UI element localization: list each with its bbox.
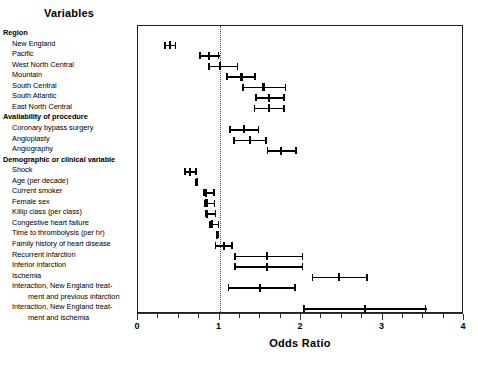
x-axis-minor-tick bbox=[422, 314, 423, 318]
ci-lower-cap bbox=[208, 63, 210, 70]
ci-upper-cap bbox=[175, 42, 177, 49]
confidence-interval-row bbox=[138, 262, 462, 271]
odds-ratio-point bbox=[249, 136, 251, 144]
variable-label-continuation: ment and previous infarction bbox=[28, 293, 119, 301]
variable-label: Coronary bypass surgery bbox=[12, 124, 93, 132]
confidence-interval-row bbox=[138, 273, 462, 282]
confidence-interval-row bbox=[138, 146, 462, 155]
ci-lower-cap bbox=[234, 263, 236, 270]
ci-upper-cap bbox=[213, 189, 215, 196]
variable-label: Family history of heart disease bbox=[12, 240, 111, 248]
confidence-interval-row bbox=[138, 188, 462, 197]
x-axis-major-tick bbox=[219, 314, 220, 320]
x-axis-minor-tick bbox=[361, 314, 362, 318]
variable-label: Mountain bbox=[12, 71, 42, 79]
ci-upper-cap bbox=[237, 63, 239, 70]
ci-upper-cap bbox=[425, 305, 427, 312]
ci-lower-cap bbox=[164, 42, 166, 49]
confidence-interval-row bbox=[138, 304, 462, 313]
x-axis-major-tick bbox=[382, 314, 383, 320]
x-axis-major-tick bbox=[137, 314, 138, 320]
variable-label: Inferior infarction bbox=[12, 261, 66, 269]
confidence-interval-row bbox=[138, 252, 462, 261]
x-axis-minor-tick bbox=[157, 314, 158, 318]
x-axis-tick-label: 4 bbox=[460, 321, 465, 331]
x-axis-minor-tick bbox=[239, 314, 240, 318]
ci-lower-cap bbox=[199, 52, 201, 59]
confidence-interval-row bbox=[138, 209, 462, 218]
odds-ratio-point bbox=[338, 273, 340, 281]
odds-ratio-point bbox=[268, 94, 270, 102]
ci-upper-cap bbox=[366, 274, 368, 281]
ci-upper-cap bbox=[258, 126, 260, 133]
confidence-interval-row bbox=[138, 83, 462, 92]
ci-line bbox=[228, 287, 296, 289]
ci-upper-cap bbox=[218, 221, 220, 228]
ci-upper-cap bbox=[215, 210, 217, 217]
x-axis-minor-tick bbox=[402, 314, 403, 318]
variable-label: Female sex bbox=[12, 198, 50, 206]
variable-label: Interaction, New England treat- bbox=[12, 303, 112, 311]
confidence-interval-row bbox=[138, 62, 462, 71]
variable-label: Interaction, New England treat- bbox=[12, 282, 112, 290]
x-axis-tick-label: 0 bbox=[134, 321, 139, 331]
ci-lower-cap bbox=[233, 137, 235, 144]
ci-lower-cap bbox=[303, 305, 305, 312]
confidence-interval-row bbox=[138, 167, 462, 176]
ci-lower-cap bbox=[242, 84, 244, 91]
odds-ratio-point bbox=[364, 305, 366, 313]
odds-ratio-point bbox=[211, 220, 213, 228]
odds-ratio-point bbox=[208, 52, 210, 60]
ci-line bbox=[234, 256, 303, 258]
odds-ratio-point bbox=[223, 242, 225, 250]
ci-upper-cap bbox=[302, 253, 304, 260]
confidence-interval-row bbox=[138, 230, 462, 239]
odds-ratio-point bbox=[268, 104, 270, 112]
x-axis-minor-tick bbox=[443, 314, 444, 318]
odds-ratio-point bbox=[189, 168, 191, 176]
group-label: Demographic or clinical variable bbox=[3, 156, 115, 164]
ci-lower-cap bbox=[255, 94, 257, 101]
odds-ratio-point bbox=[243, 125, 245, 133]
ci-upper-cap bbox=[195, 168, 197, 175]
variable-label: South Central bbox=[12, 82, 57, 90]
variable-label: Shock bbox=[12, 166, 32, 174]
x-axis-tick-label: 3 bbox=[379, 321, 384, 331]
variable-label: South Atlantic bbox=[12, 92, 57, 100]
group-label: Region bbox=[3, 29, 28, 37]
variable-label: East North Central bbox=[12, 103, 72, 111]
x-axis-minor-tick bbox=[320, 314, 321, 318]
confidence-interval-row bbox=[138, 178, 462, 187]
variable-label-column: Variables RegionNew EnglandPacificWest N… bbox=[0, 0, 136, 381]
odds-ratio-point bbox=[169, 41, 171, 49]
variable-label: Time to thrombolysis (per hr) bbox=[12, 229, 105, 237]
confidence-interval-row bbox=[138, 199, 462, 208]
ci-lower-cap bbox=[312, 274, 314, 281]
confidence-interval-row bbox=[138, 241, 462, 250]
ci-lower-cap bbox=[234, 253, 236, 260]
ci-lower-cap bbox=[226, 73, 228, 80]
forest-plot-figure: Variables RegionNew EnglandPacificWest N… bbox=[0, 0, 478, 381]
ci-upper-cap bbox=[283, 94, 285, 101]
x-axis-minor-tick bbox=[178, 314, 179, 318]
confidence-interval-row bbox=[138, 104, 462, 113]
variable-label: Current smoker bbox=[12, 187, 62, 195]
ci-lower-cap bbox=[267, 147, 269, 154]
x-axis-tick-label: 1 bbox=[216, 321, 221, 331]
odds-ratio-point bbox=[266, 263, 268, 271]
confidence-interval-row bbox=[138, 41, 462, 50]
variable-label: Age (per decade) bbox=[12, 177, 68, 185]
odds-ratio-point bbox=[259, 284, 261, 292]
x-axis-minor-tick bbox=[198, 314, 199, 318]
x-axis-major-tick bbox=[463, 314, 464, 320]
confidence-interval-row bbox=[138, 136, 462, 145]
ci-upper-cap bbox=[231, 242, 233, 249]
variable-label: Angiography bbox=[12, 145, 53, 153]
ci-line bbox=[234, 266, 303, 268]
confidence-interval-row bbox=[138, 220, 462, 229]
confidence-interval-row bbox=[138, 125, 462, 134]
ci-upper-cap bbox=[254, 73, 256, 80]
x-axis-minor-tick bbox=[259, 314, 260, 318]
variables-column-header: Variables bbox=[44, 7, 94, 19]
variable-label: Ischemia bbox=[12, 272, 41, 280]
